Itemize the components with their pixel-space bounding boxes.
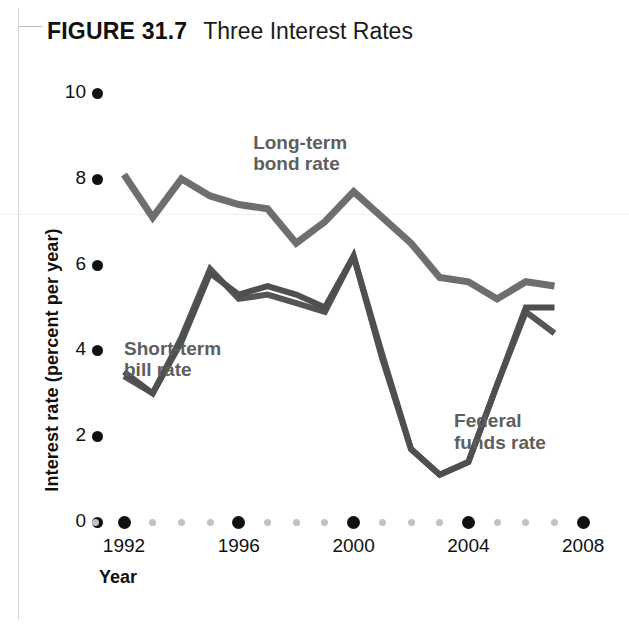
x-tick-dot-minor-1993 (149, 519, 156, 526)
x-tick-dot-2004 (462, 516, 475, 529)
x-tick-label-1992: 1992 (89, 535, 159, 557)
y-tick-label-8: 8 (52, 167, 86, 189)
long-term-bond-rate-label: Long-term bond rate (253, 132, 347, 175)
x-tick-dot-minor-1998 (293, 519, 300, 526)
x-tick-label-2004: 2004 (433, 535, 503, 557)
y-tick-label-10: 10 (52, 81, 86, 103)
y-tick-dot-10 (92, 88, 103, 99)
x-tick-dot-minor-1995 (207, 519, 214, 526)
federal-funds-rate-label: Federal funds rate (454, 410, 546, 453)
y-tick-dot-8 (92, 174, 103, 185)
x-tick-dot-minor-2002 (408, 519, 415, 526)
x-tick-dot-minor-1994 (178, 519, 185, 526)
x-tick-dot-minor-2003 (436, 519, 443, 526)
x-tick-label-1996: 1996 (204, 535, 274, 557)
y-tick-dot-6 (92, 260, 103, 271)
x-tick-dot-minor-2001 (379, 519, 386, 526)
x-tick-label-2000: 2000 (319, 535, 389, 557)
x-tick-dot-minor-1991 (92, 519, 99, 526)
figure-container: FIGURE 31.7Three Interest Rates 02468101… (0, 0, 629, 629)
x-tick-dot-2000 (347, 516, 360, 529)
x-tick-dot-minor-2005 (494, 519, 501, 526)
short-term-bill-rate-label: Short-term bill rate (124, 338, 221, 381)
y-axis-label: Interest rate (percent per year) (42, 210, 63, 510)
x-tick-dot-minor-1999 (321, 519, 328, 526)
x-tick-dot-2008 (577, 516, 590, 529)
x-tick-dot-minor-2006 (522, 519, 529, 526)
x-tick-dot-1992 (118, 516, 131, 529)
x-tick-dot-1996 (232, 516, 245, 529)
x-axis-label: Year (99, 567, 137, 588)
y-tick-label-0: 0 (52, 510, 86, 532)
x-tick-dot-minor-1997 (264, 519, 271, 526)
x-tick-label-2008: 2008 (548, 535, 618, 557)
x-tick-dot-minor-2007 (551, 519, 558, 526)
